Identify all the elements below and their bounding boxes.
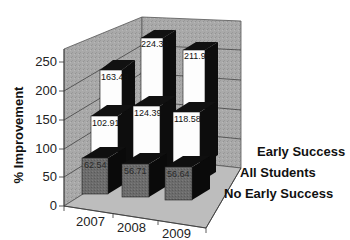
label-early-success-2009: 211.95: [184, 51, 211, 61]
x-tick-2007: 2007: [76, 214, 105, 229]
label-all-students-2008: 124.39: [134, 108, 162, 118]
label-all-students-2007: 102.91: [92, 118, 120, 128]
y-tick-50: 50: [43, 169, 57, 184]
depth-label-early-success: Early Success: [257, 144, 345, 159]
y-axis-title: % Improvement: [11, 86, 26, 183]
y-tick-150: 150: [35, 112, 57, 127]
label-all-students-2009: 118.58: [174, 114, 201, 124]
label-no-early-success-2008: 56.71: [124, 166, 147, 176]
y-tick-0: 0: [50, 198, 57, 213]
y-axis: 0 50 100 150 200 250 % Improvement: [11, 49, 64, 213]
chart-3d-bar: 0 50 100 150 200 250 % Improvement 163.4…: [0, 0, 350, 240]
label-no-early-success-2007: 62.54: [84, 160, 107, 170]
y-tick-200: 200: [35, 83, 57, 98]
label-early-success-2008: 224.30: [141, 39, 169, 49]
depth-label-no-early-success: No Early Success: [224, 186, 333, 201]
label-no-early-success-2009: 56.64: [167, 169, 190, 179]
depth-label-all-students: All Students: [240, 165, 316, 180]
bar-no-early-success-2007: 62.54: [82, 147, 126, 194]
depth-axis-labels: Early Success All Students No Early Succ…: [224, 144, 345, 201]
y-tick-100: 100: [35, 141, 57, 156]
x-tick-2008: 2008: [117, 220, 146, 235]
label-early-success-2007: 163.48: [101, 72, 129, 82]
x-tick-2009: 2009: [162, 226, 191, 240]
y-tick-250: 250: [35, 54, 57, 69]
